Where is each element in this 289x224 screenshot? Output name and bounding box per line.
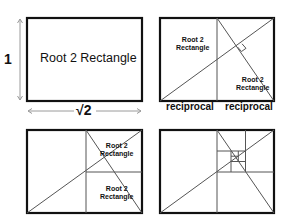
reciprocal-rect-label-right: Root 2 Rectangle (236, 76, 269, 92)
reciprocal-rect-label-left: Root 2 Rectangle (176, 36, 209, 52)
diagram-canvas (0, 0, 289, 224)
reciprocal-label-left: reciprocal (166, 101, 214, 112)
subdivision-label-bottom: Root 2 Rectangle (100, 185, 133, 201)
panel-root2-rectangle (18, 18, 143, 114)
reciprocal-label-right: reciprocal (225, 101, 273, 112)
subdivision-label-top: Root 2 Rectangle (100, 142, 133, 158)
width-label: √2 (76, 102, 91, 118)
height-label: 1 (4, 51, 12, 67)
root2-rectangle-title: Root 2 Rectangle (40, 51, 137, 65)
panel-spiral-subdivision (160, 130, 274, 213)
height-arrow-icon (18, 19, 23, 100)
